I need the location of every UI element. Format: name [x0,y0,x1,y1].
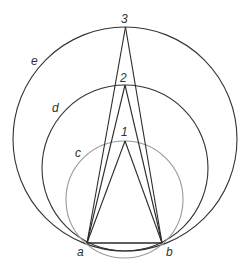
inscribed-angle-diagram: 3 2 1 e d c a b [0,0,248,266]
label-a: a [77,245,84,259]
line-a-3 [87,27,126,243]
line-a-1 [87,141,125,243]
label-b: b [166,245,173,259]
label-e: e [31,54,38,68]
label-1: 1 [121,125,128,139]
label-c: c [75,146,81,160]
circle-d [42,85,208,251]
label-2: 2 [119,71,127,85]
label-3: 3 [121,12,128,26]
label-d: d [52,101,59,115]
line-b-2 [125,85,162,243]
circle-e [13,27,237,251]
line-a-2 [87,85,125,243]
line-b-1 [125,141,162,243]
line-b-3 [126,27,163,243]
